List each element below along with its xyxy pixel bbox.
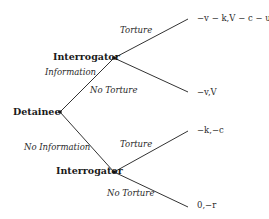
payoff-noinfo-no-torture: 0,−r: [197, 201, 216, 210]
action-lower-no-torture: No Torture: [107, 189, 154, 198]
action-lower-torture: Torture: [120, 140, 152, 149]
action-information: Information: [45, 68, 96, 77]
interrogator-lower-label: Interrogator: [56, 166, 123, 176]
action-upper-torture: Torture: [120, 26, 152, 35]
detainee-label: Detainee: [13, 107, 60, 117]
edge-lower-torture: [114, 131, 188, 172]
action-upper-no-torture: No Torture: [90, 86, 137, 95]
payoff-noinfo-torture: −k,−c: [197, 126, 224, 135]
action-no-information: No Information: [24, 143, 90, 152]
payoff-info-torture: −v − k,V − c − u: [197, 14, 269, 23]
interrogator-upper-label: Interrogator: [53, 52, 120, 62]
payoff-info-no-torture: −v,V: [197, 88, 217, 97]
